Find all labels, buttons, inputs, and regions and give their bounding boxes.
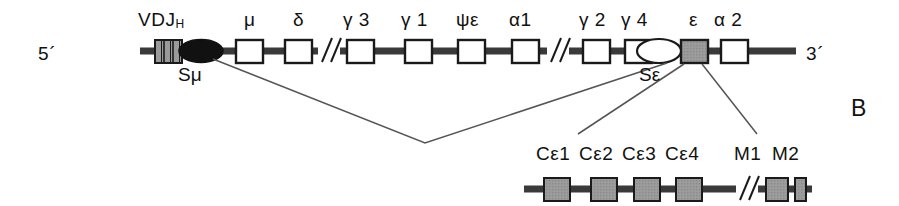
three-prime-label: 3´ bbox=[806, 44, 825, 63]
exon-label-c-epsilon-1: Cε1 bbox=[536, 144, 570, 163]
break-mark-2 bbox=[547, 38, 570, 62]
panel-letter-b: B bbox=[851, 97, 866, 120]
break-mark-3 bbox=[736, 176, 759, 200]
gene-label-psi-epsilon: ψε bbox=[456, 10, 479, 29]
expansion-line-right bbox=[702, 64, 757, 134]
exon-label-c-epsilon-4: Cε4 bbox=[665, 144, 699, 163]
exon-box-c-epsilon-1 bbox=[544, 178, 570, 201]
exon-box-m1 bbox=[766, 178, 788, 201]
vdj-h-label: VDJH bbox=[138, 10, 184, 30]
gene-box-gamma2 bbox=[583, 40, 610, 63]
gene-box-epsilon bbox=[681, 40, 708, 63]
break-mark-1 bbox=[318, 38, 341, 62]
vdj-h-label-text: VDJ bbox=[138, 9, 175, 30]
gene-label-gamma2: γ 2 bbox=[579, 10, 606, 29]
exon-box-c-epsilon-2 bbox=[591, 178, 617, 201]
exon-label-m2: M2 bbox=[772, 144, 799, 163]
ig-heavy-chain-locus-figure: 5´ 3´ VDJH μ δ γ 3 γ 1 ψε α1 γ 2 γ 4 ε α… bbox=[0, 0, 899, 206]
s-epsilon-label: Sε bbox=[639, 65, 660, 84]
exon-box-c-epsilon-4 bbox=[676, 178, 702, 201]
gene-label-mu: μ bbox=[244, 10, 255, 29]
diagram-canvas bbox=[0, 0, 899, 206]
exon-label-m1: M1 bbox=[734, 144, 761, 163]
exon-box-c-epsilon-3 bbox=[634, 178, 660, 201]
exon-box-m2 bbox=[795, 178, 806, 201]
epsilon-expansion-connectors bbox=[578, 64, 757, 134]
gene-label-gamma3: γ 3 bbox=[343, 10, 370, 29]
gene-label-gamma4: γ 4 bbox=[621, 10, 648, 29]
gene-box-alpha1 bbox=[512, 40, 539, 63]
s-mu-switch-region bbox=[179, 40, 223, 63]
switch-recombination-connector bbox=[213, 59, 667, 143]
gene-box-psi-epsilon bbox=[458, 40, 485, 63]
gene-box-gamma3 bbox=[347, 40, 374, 63]
s-mu-label: Sμ bbox=[178, 65, 202, 84]
gene-label-epsilon: ε bbox=[689, 10, 698, 29]
gene-label-gamma1: γ 1 bbox=[401, 10, 428, 29]
vdj-h-label-subscript: H bbox=[175, 17, 184, 31]
gene-label-delta: δ bbox=[293, 10, 304, 29]
gene-label-alpha1: α1 bbox=[509, 10, 532, 29]
exon-label-c-epsilon-2: Cε2 bbox=[579, 144, 613, 163]
exon-label-c-epsilon-3: Cε3 bbox=[622, 144, 656, 163]
gene-box-alpha2 bbox=[721, 40, 748, 63]
vdj-h-segment-box bbox=[155, 40, 182, 63]
gene-box-mu bbox=[236, 40, 263, 63]
five-prime-label: 5´ bbox=[38, 44, 57, 63]
s-epsilon-switch-region bbox=[637, 39, 681, 63]
gene-box-gamma1 bbox=[405, 40, 432, 63]
gene-label-alpha2: α 2 bbox=[714, 10, 742, 29]
gene-box-delta bbox=[285, 40, 312, 63]
